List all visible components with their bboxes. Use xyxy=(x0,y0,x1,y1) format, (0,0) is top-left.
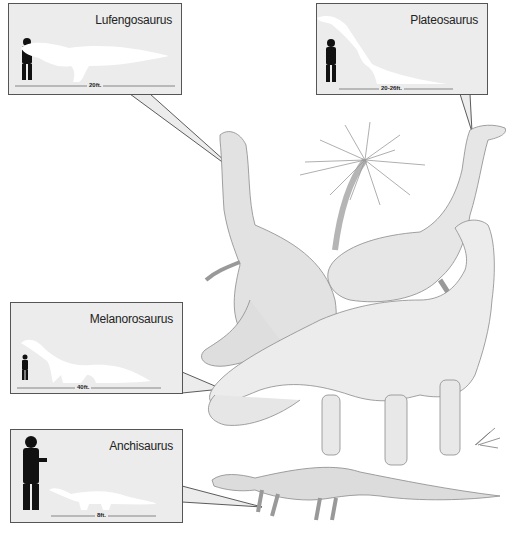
cycad-tree xyxy=(300,122,425,250)
length-label: 8ft. xyxy=(95,512,108,518)
size-comparison-graphic xyxy=(11,303,184,395)
callout-lufengosaurus: Lufengosaurus 20ft. xyxy=(8,3,182,95)
anchisaurus-silhouette-icon xyxy=(49,488,156,510)
anchisaurus-figure xyxy=(212,467,500,520)
human-silhouette-icon xyxy=(23,436,47,510)
illustration-stage: Lufengosaurus 20ft. Plateosaurus 20-26ft… xyxy=(0,0,518,546)
lufengosaurus-silhouette-icon xyxy=(21,43,169,82)
length-label: 20ft. xyxy=(87,82,103,88)
human-silhouette-icon xyxy=(22,355,28,381)
plateosaurus-silhouette-icon xyxy=(317,16,447,84)
size-comparison-graphic xyxy=(317,4,489,96)
length-label: 20-26ft. xyxy=(379,85,404,91)
plateosaurus-pointer xyxy=(460,94,472,132)
callout-plateosaurus: Plateosaurus 20-26ft. xyxy=(316,3,488,95)
fern-plant xyxy=(475,428,500,448)
melanorosaurus-silhouette-icon xyxy=(21,340,151,383)
callout-melanorosaurus: Melanorosaurus 40ft. xyxy=(10,302,183,394)
length-label: 40ft. xyxy=(75,384,91,390)
human-silhouette-icon xyxy=(326,39,336,82)
size-comparison-graphic xyxy=(11,430,184,524)
callout-anchisaurus: Anchisaurus 8ft. xyxy=(10,429,183,523)
